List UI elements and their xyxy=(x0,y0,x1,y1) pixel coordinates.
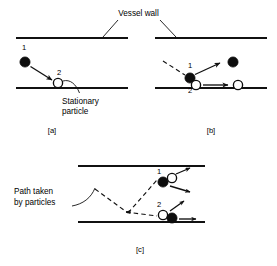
vessel-wall-leader-left xyxy=(103,20,118,37)
stationary-particle-label-line2: particle xyxy=(62,107,89,116)
panel-a-velocity-arrow xyxy=(31,67,53,81)
vessel-wall-leader-right xyxy=(160,20,176,37)
panel-c-particle-2-label: 2 xyxy=(157,200,161,209)
panel-c-particle-1-pair xyxy=(167,173,176,182)
panel-c-path-segment-1 xyxy=(95,189,128,213)
panel-c-path-segment-2 xyxy=(128,180,157,213)
panel-c-caption: [c] xyxy=(136,245,144,254)
panel-c: 1 2 Path taken by particles [c] xyxy=(14,166,205,254)
panel-b-incoming-trajectory xyxy=(163,61,185,75)
stationary-particle-leader xyxy=(63,81,80,93)
panel-c-path-segment-3 xyxy=(126,212,157,216)
panel-c-particle-2-pair xyxy=(167,213,177,223)
stationary-particle-label-line1: Stationary xyxy=(62,97,100,106)
panel-a-particle-2 xyxy=(53,78,62,87)
panel-a-particle-1-label: 1 xyxy=(22,43,26,52)
panel-c-particle-2-arrow-up xyxy=(170,201,184,211)
panel-c-particle-1 xyxy=(158,177,168,187)
panel-b-caption: [b] xyxy=(207,126,215,135)
panel-c-particle-1-arrow-down xyxy=(170,186,190,192)
vessel-wall-label: Vessel wall xyxy=(118,9,159,18)
panel-b-particle-1-after xyxy=(228,57,238,67)
panel-c-particle-1-label: 1 xyxy=(157,167,161,176)
panel-a-particle-2-label: 2 xyxy=(57,68,61,77)
path-taken-leader xyxy=(72,188,95,206)
figure-container: Vessel wall 1 2 Stationary particle [a] … xyxy=(0,0,277,266)
panel-a-caption: [a] xyxy=(48,126,56,135)
panel-b-particle-2-after xyxy=(233,80,242,89)
panel-b-particle-2-label: 2 xyxy=(188,86,192,95)
panel-b-particle-2 xyxy=(191,80,200,89)
path-taken-label-line1: Path taken xyxy=(14,187,54,196)
particle-collision-diagram: Vessel wall 1 2 Stationary particle [a] … xyxy=(0,0,277,266)
panel-c-particle-2 xyxy=(158,210,167,219)
panel-c-particle-1-arrow-up xyxy=(176,168,190,174)
panel-a-particle-1 xyxy=(20,57,30,67)
path-taken-label-line2: by particles xyxy=(14,198,55,207)
panel-b-particle-1-rebound-arrow xyxy=(195,63,220,75)
panel-a: 1 2 Stationary particle [a] xyxy=(16,38,128,135)
panel-b: 1 2 [b] xyxy=(155,38,267,135)
panel-b-particle-1-label: 1 xyxy=(188,61,192,70)
